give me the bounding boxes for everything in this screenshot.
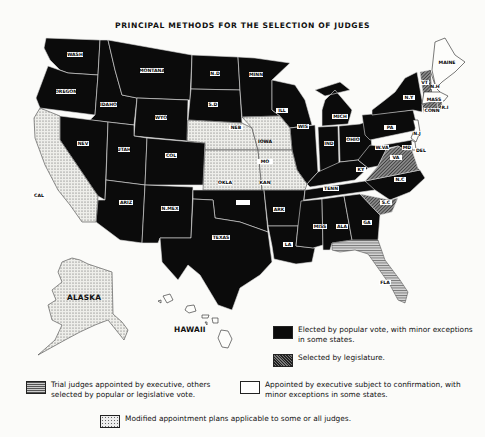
svg-text:N.D: N.D [210,71,220,76]
alaska-label: ALASKA [67,293,101,302]
svg-text:FLA: FLA [380,280,390,285]
svg-text:MONTANA: MONTANA [139,68,165,73]
state-kan [203,150,262,190]
swatch-trial-appointed [26,381,46,394]
swatch-appointed [240,381,260,394]
legend-modified: Modified appointment plans applicable to… [100,414,400,428]
svg-text:KY: KY [358,167,366,172]
svg-text:WIS: WIS [298,124,308,129]
svg-text:N.J: N.J [413,131,421,136]
legend-appointed-text: Appointed by executive subject to confir… [265,380,480,399]
svg-text:W.VA: W.VA [375,145,389,150]
svg-text:OHIO: OHIO [346,137,359,142]
svg-text:WYO: WYO [155,115,167,120]
hawaii-label: HAWAII [174,325,206,334]
svg-text:IOWA: IOWA [258,139,272,144]
svg-text:MASS: MASS [427,97,442,102]
svg-text:VA: VA [393,155,400,160]
svg-text:OKLA: OKLA [218,180,232,185]
svg-text:ARIZ: ARIZ [120,200,133,205]
svg-text:N.C: N.C [396,177,406,182]
us-map: WASH OREGON CAL IDAHO NEV MONTANA WYO UT… [0,0,485,437]
state-nmex [142,185,193,243]
legend-modified-text: Modified appointment plans applicable to… [125,414,351,424]
legend-legislature-text: Selected by legislature. [298,353,385,363]
svg-text:MO: MO [261,159,270,164]
svg-text:MAINE: MAINE [439,60,456,65]
trial-appointed-region [332,240,408,303]
svg-text:LA: LA [285,242,292,247]
svg-text:MISS: MISS [314,224,327,229]
legend-elected: Elected by popular vote, with minor exce… [273,325,473,344]
svg-text:R.I: R.I [441,105,448,110]
svg-text:MD: MD [403,145,412,150]
legend-legislature: Selected by legislature. [273,353,473,367]
svg-text:ARK: ARK [274,207,285,212]
svg-text:PA: PA [387,125,394,130]
svg-text:WASH: WASH [67,52,83,57]
svg-text:VT: VT [421,80,429,85]
swatch-elected [273,326,293,339]
state-ny [372,72,422,115]
state-mich [315,82,352,126]
svg-text:ALA: ALA [337,224,347,229]
legend-trial: Trial judges appointed by executive, oth… [26,380,241,399]
state-col [145,138,205,185]
legend-appointed: Appointed by executive subject to confir… [240,380,480,399]
svg-text:N.H: N.H [430,84,440,89]
state-fla [332,240,408,303]
swatch-legislature [273,354,293,367]
svg-text:NEV: NEV [78,141,89,146]
svg-text:IND: IND [324,141,334,146]
svg-text:S.C: S.C [382,200,391,205]
svg-text:N.MEX: N.MEX [162,206,179,211]
svg-text:CAL: CAL [34,193,44,198]
legend-elected-text: Elected by popular vote, with minor exce… [298,325,473,344]
svg-text:UTAH: UTAH [117,147,131,152]
svg-text:MICH: MICH [333,114,347,119]
svg-text:KAN: KAN [260,180,271,185]
svg-text:CONN: CONN [425,108,440,113]
swatch-modified [100,415,120,428]
svg-text:DEL: DEL [416,148,426,153]
svg-text:COL: COL [166,153,176,158]
svg-text:IDAHO: IDAHO [100,102,117,107]
svg-text:MINN: MINN [249,72,263,77]
svg-text:OREGON: OREGON [55,89,77,94]
legend-trial-text: Trial judges appointed by executive, oth… [51,380,241,399]
state-alaska [38,258,128,355]
svg-text:TENN: TENN [324,186,338,191]
svg-text:S.D: S.D [209,102,218,107]
svg-text:GA: GA [363,220,371,225]
svg-text:TEXAS: TEXAS [213,235,230,240]
svg-text:ILL: ILL [278,108,286,113]
svg-text:N.Y: N.Y [405,95,415,100]
